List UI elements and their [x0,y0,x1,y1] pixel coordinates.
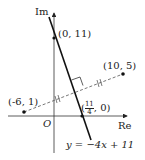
line-equation-label: y = −4x + 11 [66,140,134,150]
equal-length-marks [55,79,102,103]
point-label-10-5: (10, 5) [103,61,136,71]
point-10-5 [121,72,125,76]
diagram-canvas [0,0,145,160]
point-label-0-11: (0, 11) [58,29,91,39]
point-0-11 [52,36,55,39]
point-label-neg6-1: (-6, 1) [8,97,38,107]
origin-label: O [43,119,51,129]
fraction: 114 [85,101,94,116]
point-neg6-1 [22,110,26,114]
real-axis-label: Re [118,121,131,131]
imaginary-axis-label: Im [35,7,48,17]
point-label-11over4-0: (114, 0) [81,101,110,116]
right-angle-marker [72,77,84,86]
